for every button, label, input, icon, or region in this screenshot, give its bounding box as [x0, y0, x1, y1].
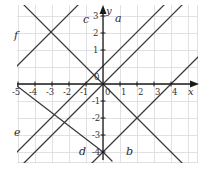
x-tick-label-0: 0	[105, 88, 110, 97]
x-tick-label-neg2: -2	[63, 88, 71, 97]
coordinate-plane	[0, 0, 208, 171]
y-tick-label-neg3: -3	[92, 131, 100, 140]
x-tick-label-3: 3	[155, 88, 160, 97]
y-tick-label-neg4: -4	[92, 148, 100, 157]
y-tick-label-2: 2	[93, 29, 98, 38]
x-tick-label-2: 2	[138, 88, 143, 97]
curve-label-f: f	[14, 30, 18, 41]
x-tick-label-1: 1	[121, 88, 126, 97]
y-tick-label-neg2: -2	[92, 114, 100, 123]
y-axis-label: y	[106, 6, 112, 16]
graph-figure: -5 -4 -3 -2 -1 0 1 2 3 4 3 2 1 0 -1 -2 -…	[0, 0, 208, 171]
curve-label-d: d	[79, 146, 86, 157]
x-tick-label-neg1: -1	[80, 88, 88, 97]
x-tick-label-neg3: -3	[46, 88, 54, 97]
y-tick-label-1: 1	[93, 46, 98, 55]
curve-label-a: a	[115, 13, 122, 24]
y-tick-label-neg1: -1	[92, 97, 100, 106]
curve-label-c: c	[83, 14, 89, 25]
curve-label-b: b	[126, 146, 133, 157]
x-tick-label-neg4: -4	[29, 88, 37, 97]
x-axis-label: x	[188, 87, 194, 97]
y-tick-label-0: 0	[94, 73, 99, 82]
curve-label-e: e	[14, 127, 21, 138]
y-tick-label-3: 3	[93, 12, 98, 21]
x-tick-label-neg5: -5	[12, 88, 20, 97]
x-tick-label-4: 4	[172, 88, 177, 97]
